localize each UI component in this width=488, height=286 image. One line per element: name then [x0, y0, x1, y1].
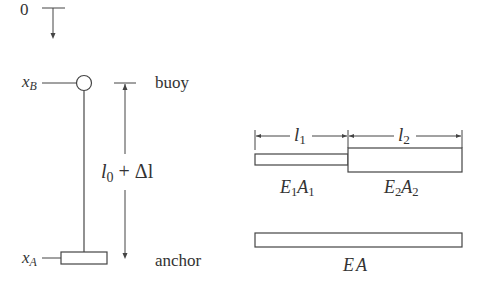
diagram-canvas	[0, 0, 488, 286]
origin-marker	[42, 8, 65, 39]
arrow-down-icon	[123, 253, 128, 259]
anchor-icon	[61, 252, 107, 264]
arrow-down-icon	[51, 33, 56, 39]
equivalent-stiffness-label: EA	[343, 256, 369, 274]
equivalent-bar	[255, 233, 462, 247]
segment-1-stiffness-label: E1A1	[280, 178, 315, 196]
segment-1-length-label: l1	[294, 125, 306, 144]
arrow-up-icon	[123, 84, 128, 90]
anchor-label: anchor	[155, 252, 201, 269]
buoy-icon	[77, 76, 92, 91]
origin-label: 0	[20, 1, 29, 18]
segment-2-stiffness-label: E2A2	[384, 178, 419, 196]
segment-1-bar	[255, 154, 348, 165]
buoy-label: buoy	[155, 74, 189, 91]
anchor-position-label: xA	[22, 249, 37, 266]
buoy-position-label: xB	[22, 73, 37, 90]
segment-2-length-label: l2	[398, 125, 410, 144]
segment-dimensions	[255, 130, 462, 150]
segment-2-bar	[348, 148, 462, 172]
length-label: l0 + Δl	[101, 161, 153, 181]
